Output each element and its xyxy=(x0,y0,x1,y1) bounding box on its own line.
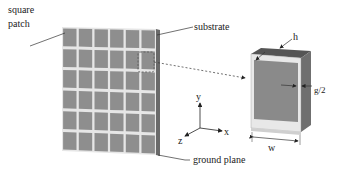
square-patch xyxy=(110,30,123,48)
square-patch xyxy=(95,29,108,47)
square-patch xyxy=(142,51,155,69)
metasurface-panel xyxy=(62,27,160,156)
unit-cell-3d xyxy=(251,48,311,135)
x-axis xyxy=(200,128,222,131)
unit-side-face xyxy=(301,51,311,132)
square-patch xyxy=(126,51,139,69)
square-patch xyxy=(142,93,155,111)
square-patch xyxy=(110,50,123,68)
square-patch xyxy=(63,49,76,67)
square-patch xyxy=(95,50,108,68)
square-patch xyxy=(79,112,92,130)
label-patch: patch xyxy=(8,18,30,29)
label-axis-x: x xyxy=(224,126,229,137)
square-patch xyxy=(95,133,108,151)
label-w: w xyxy=(268,142,276,153)
label-axis-z: z xyxy=(178,135,183,146)
h-arrow xyxy=(280,39,292,48)
zoom-dashed-arrow xyxy=(154,62,245,78)
square-patch xyxy=(79,29,92,47)
square-patch xyxy=(79,133,92,151)
label-g2: g/2 xyxy=(314,85,326,95)
metasurface-diagram: square patch substrate ground plane h g/… xyxy=(0,0,353,171)
square-patch xyxy=(142,135,155,154)
label-square: square xyxy=(8,4,35,15)
square-patch xyxy=(63,29,76,47)
label-h: h xyxy=(293,31,298,42)
square-patch xyxy=(142,114,155,132)
substrate-edge xyxy=(156,29,160,156)
square-patch xyxy=(79,91,92,109)
label-substrate: substrate xyxy=(194,21,230,32)
label-ground-plane: ground plane xyxy=(193,154,246,165)
square-patch xyxy=(126,134,139,153)
square-patch xyxy=(63,70,76,88)
square-patch xyxy=(110,71,123,89)
square-patch xyxy=(110,134,123,152)
square-patch xyxy=(126,72,139,90)
square-patch xyxy=(95,92,108,110)
label-axis-y: y xyxy=(196,91,201,102)
w-dimension xyxy=(253,137,298,141)
square-patch-leader xyxy=(30,33,65,46)
substrate-leader xyxy=(157,27,193,35)
square-patch xyxy=(95,112,108,130)
square-patch xyxy=(126,113,139,131)
square-patch xyxy=(63,132,76,150)
square-patch xyxy=(79,50,92,68)
square-patch xyxy=(142,30,155,48)
square-patch xyxy=(126,30,139,48)
square-patch xyxy=(110,92,123,110)
square-patch xyxy=(142,72,155,90)
square-patch xyxy=(63,91,76,109)
unit-patch-face xyxy=(254,60,298,122)
square-patch xyxy=(63,111,76,129)
ground-plane-leader xyxy=(158,155,190,160)
square-patch xyxy=(110,113,123,131)
coordinate-axes: y x z xyxy=(178,91,229,146)
square-patch xyxy=(126,93,139,111)
z-axis xyxy=(185,128,200,136)
square-patch xyxy=(79,70,92,88)
square-patch xyxy=(95,71,108,89)
